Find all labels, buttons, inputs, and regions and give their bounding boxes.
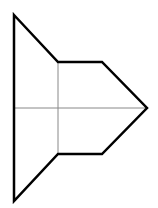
geometric-diagram <box>0 0 158 208</box>
